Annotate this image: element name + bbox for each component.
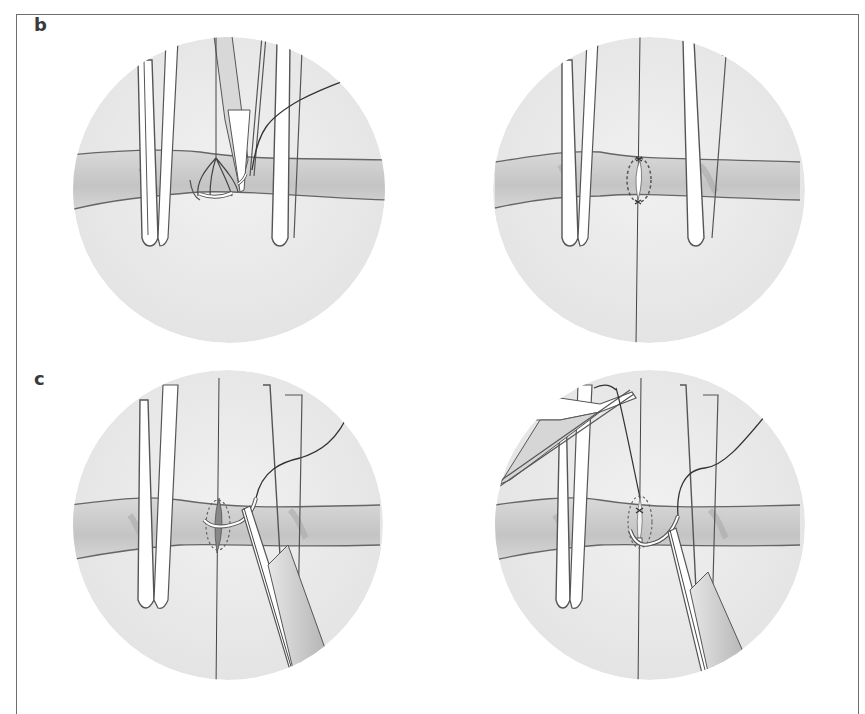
panel-c-right-image xyxy=(495,370,805,690)
panel-b-left-image xyxy=(70,36,390,343)
panel-c-left-image xyxy=(70,370,383,690)
panel-b-right-image xyxy=(493,36,805,345)
